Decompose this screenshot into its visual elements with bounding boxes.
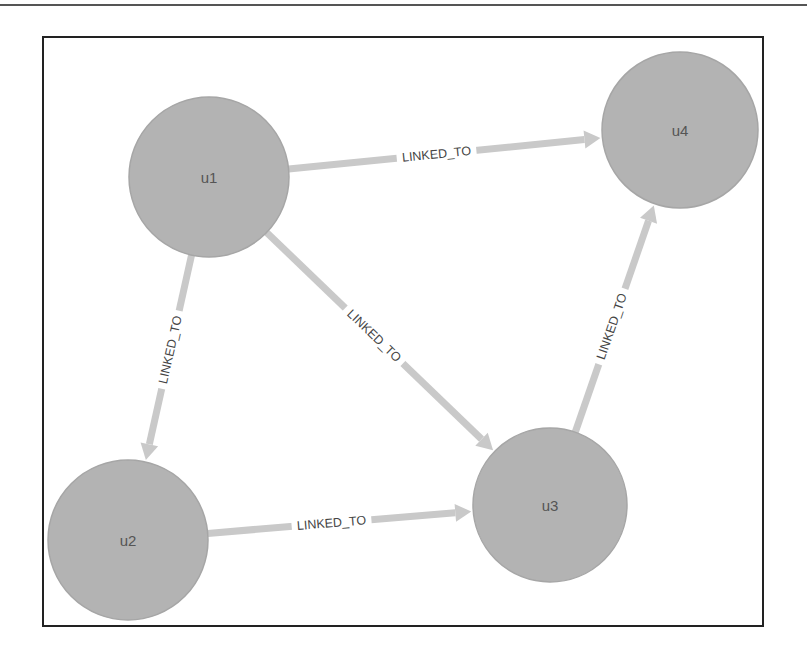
edge-u1-u4[interactable]: LINKED_TO	[289, 131, 601, 169]
edge-label-group: LINKED_TO	[153, 309, 188, 391]
nodes-layer: u1u4u2u3	[48, 52, 758, 620]
node-u1[interactable]: u1	[129, 97, 289, 257]
node-label: u1	[201, 169, 218, 186]
edge-u1-u3[interactable]: LINKED_TO	[267, 232, 493, 450]
edge-u2-u3[interactable]: LINKED_TO	[208, 504, 472, 536]
node-u4[interactable]: u4	[602, 52, 758, 208]
graph-canvas: LINKED_TOLINKED_TOLINKED_TOLINKED_TOLINK…	[0, 0, 807, 660]
edge-label-group: LINKED_TO	[590, 286, 633, 367]
edge-u3-u4[interactable]: LINKED_TO	[575, 206, 657, 433]
node-label: u2	[120, 532, 137, 549]
node-u3[interactable]: u3	[473, 428, 627, 582]
edge-label: LINKED_TO	[344, 307, 404, 365]
edge-label-group: LINKED_TO	[339, 302, 409, 370]
edge-label-group: LINKED_TO	[396, 141, 477, 167]
node-label: u4	[672, 122, 689, 139]
node-label: u3	[542, 497, 559, 514]
edge-u1-u2[interactable]: LINKED_TO	[141, 255, 192, 460]
arrowhead-icon	[141, 442, 159, 460]
edge-label-group: LINKED_TO	[291, 511, 372, 536]
node-u2[interactable]: u2	[48, 460, 208, 620]
arrowhead-icon	[584, 131, 601, 149]
arrowhead-icon	[455, 504, 472, 522]
edge-label: LINKED_TO	[156, 314, 185, 385]
